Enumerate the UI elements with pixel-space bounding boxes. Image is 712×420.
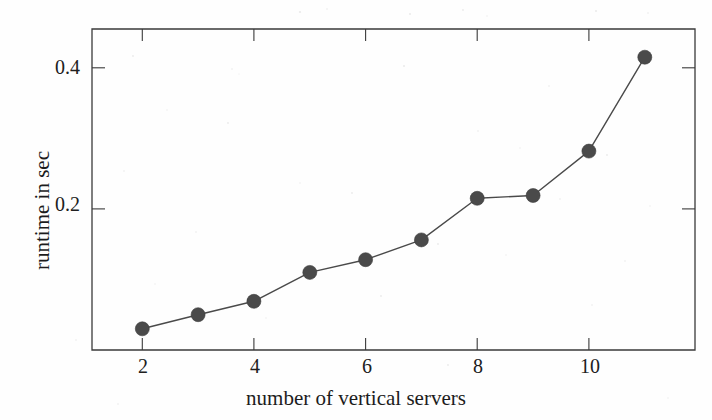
y-axis-label: runtime in sec bbox=[30, 151, 55, 270]
data-point bbox=[414, 233, 428, 247]
data-point bbox=[582, 144, 596, 158]
data-point bbox=[470, 191, 484, 205]
data-point bbox=[247, 294, 261, 308]
x-tick-label-8: 8 bbox=[448, 356, 508, 376]
data-point bbox=[638, 50, 652, 64]
data-point bbox=[359, 253, 373, 267]
y-axis-ticks bbox=[92, 68, 695, 209]
x-tick-label-10: 10 bbox=[560, 356, 620, 376]
figure-container: 0.4 0.2 2 4 6 8 10 number of vertical se… bbox=[0, 0, 712, 420]
x-tick-label-6: 6 bbox=[337, 356, 397, 376]
data-point bbox=[303, 265, 317, 279]
data-series-runtime bbox=[135, 50, 652, 336]
y-tick-label-0.4: 0.4 bbox=[20, 57, 80, 77]
x-tick-label-2: 2 bbox=[113, 356, 173, 376]
data-point bbox=[526, 189, 540, 203]
data-point bbox=[191, 308, 205, 322]
x-axis-ticks bbox=[142, 29, 589, 350]
x-tick-label-4: 4 bbox=[225, 356, 285, 376]
plot-frame bbox=[92, 29, 695, 350]
data-point bbox=[135, 322, 149, 336]
x-axis-label: number of vertical servers bbox=[0, 386, 712, 411]
